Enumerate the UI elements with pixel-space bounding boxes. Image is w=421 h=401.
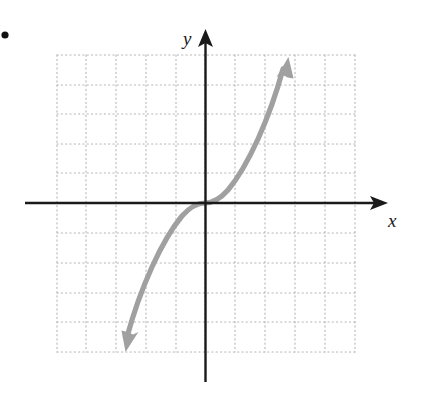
- item-bullet-marker: [1, 31, 8, 38]
- x-axis-label: x: [387, 210, 397, 231]
- y-axis-label: y: [181, 28, 192, 49]
- coordinate-plane-svg: y x: [0, 0, 421, 401]
- graph-figure: y x: [0, 0, 421, 401]
